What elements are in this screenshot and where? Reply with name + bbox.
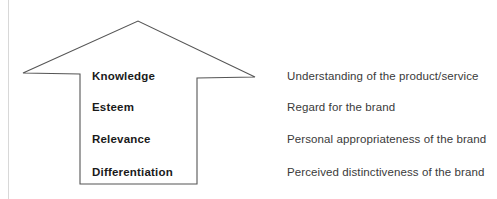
pillar-label-differentiation: Differentiation xyxy=(92,166,173,178)
pillar-description-esteem: Regard for the brand xyxy=(287,101,395,113)
pillar-label-relevance: Relevance xyxy=(92,133,151,145)
pillar-label-knowledge: Knowledge xyxy=(92,70,155,82)
pillar-description-relevance: Personal appropriateness of the brand xyxy=(287,133,486,145)
arrow-outline-path xyxy=(23,21,255,184)
pillar-label-esteem: Esteem xyxy=(92,101,134,113)
pillar-description-knowledge: Understanding of the product/service xyxy=(287,70,479,82)
brand-pillars-diagram: Knowledge Esteem Relevance Differentiati… xyxy=(0,0,497,199)
pillar-description-differentiation: Perceived distinctiveness of the brand xyxy=(287,166,485,178)
